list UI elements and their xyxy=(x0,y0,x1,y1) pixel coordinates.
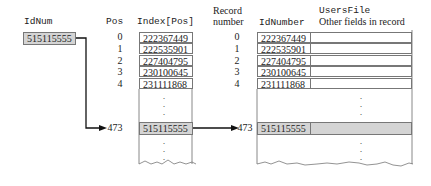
record-1: 1 xyxy=(230,43,244,55)
index-cell-1: 222535901 xyxy=(139,43,193,54)
pos-0: 0 xyxy=(113,31,127,43)
file-id-2: 227404795 xyxy=(257,55,311,66)
file-id-found: 515115555 xyxy=(257,122,311,135)
record-3: 3 xyxy=(230,66,244,78)
idnum-value-box: 515115555 xyxy=(23,32,76,45)
other-fields-header: Other fields in record xyxy=(319,16,405,27)
file-id-0: 222367449 xyxy=(257,32,311,43)
pos-3: 3 xyxy=(113,66,127,78)
record-number-header-2: number xyxy=(213,16,244,27)
pos-header: Pos xyxy=(106,16,123,27)
file-id-3: 230100645 xyxy=(257,66,311,77)
file-other-2 xyxy=(310,55,412,66)
file-ellipsis-lower: ··· xyxy=(359,139,363,163)
file-other-3 xyxy=(310,66,412,77)
file-ellipsis-upper: ··· xyxy=(359,94,363,118)
pos-1: 1 xyxy=(113,43,127,55)
index-ellipsis-lower: ··· xyxy=(162,139,166,163)
record-0: 0 xyxy=(230,31,244,43)
index-cell-0: 222367449 xyxy=(139,32,193,43)
file-other-1 xyxy=(310,43,412,54)
file-other-0 xyxy=(310,32,412,43)
file-id-1: 222535901 xyxy=(257,43,311,54)
diagram-lines xyxy=(0,0,431,186)
idnum-label: IdNum xyxy=(24,16,53,27)
found-record: 473 xyxy=(236,122,254,134)
index-cell-3: 230100645 xyxy=(139,66,193,77)
file-gap-top xyxy=(257,88,412,89)
found-pos: 473 xyxy=(106,122,124,134)
record-number-header-1: Record xyxy=(213,5,242,16)
usersfile-title: UsersFile xyxy=(319,5,370,16)
index-ellipsis-upper: ··· xyxy=(162,94,166,118)
index-gap-top xyxy=(139,88,193,89)
pos-4: 4 xyxy=(113,78,127,90)
index-cell-2: 227404795 xyxy=(139,55,193,66)
index-header: Index[Pos] xyxy=(137,16,194,27)
file-other-found xyxy=(310,122,412,135)
idnumber-header: IdNumber xyxy=(259,17,305,28)
index-cell-found: 515115555 xyxy=(139,122,193,135)
record-4: 4 xyxy=(230,78,244,90)
